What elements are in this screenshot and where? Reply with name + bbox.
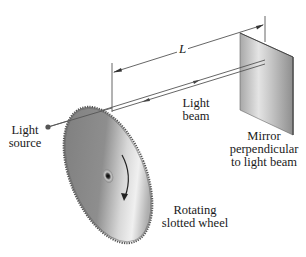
dimension-arrow-right-icon [256, 25, 264, 30]
light-beam-label: Light beam [176, 97, 216, 123]
beam-arrow-outgoing-icon [193, 80, 200, 84]
wheel-label: Rotating slotted wheel [160, 204, 230, 230]
dimension-arrow-left-icon [113, 68, 122, 73]
light-source-label: Light source [6, 124, 44, 150]
mirror [240, 33, 293, 135]
fizeau-apparatus-diagram: L Light beam Light source Mirror perpend… [0, 0, 306, 257]
rotating-slotted-wheel [46, 94, 170, 256]
light-source-dot [45, 124, 50, 129]
distance-label: L [177, 42, 188, 55]
beam-arrow-returning-icon [142, 98, 150, 102]
mirror-label: Mirror perpendicular to light beam [228, 130, 300, 169]
